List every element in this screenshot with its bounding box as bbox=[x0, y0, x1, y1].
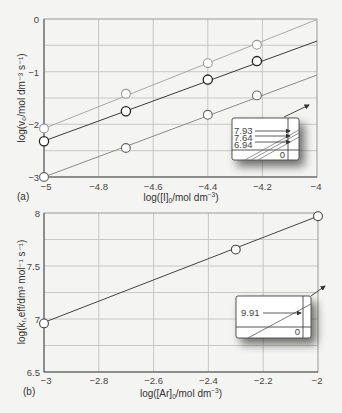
svg-text:−2.8: −2.8 bbox=[89, 375, 108, 386]
inset-a-zero: 0 bbox=[280, 149, 285, 160]
svg-text:−5: −5 bbox=[41, 181, 52, 192]
inset-b-zero: 0 bbox=[295, 326, 300, 337]
svg-text:−4: −4 bbox=[311, 181, 322, 192]
y-ticks-b: 6.5 7 7.5 8 bbox=[27, 208, 40, 378]
series-middle-points bbox=[39, 57, 261, 146]
x-ticks-b: −3 −2.8 −2.6 −2.4 −2.2 −2 bbox=[41, 375, 323, 386]
figure: −3 −2 −1 0 −5 −4.8 −4.6 −4.4 −4.2 −4 (a)… bbox=[0, 0, 342, 413]
panel-b: 6.5 7 7.5 8 −3 −2.8 −2.6 −2.4 −2.2 −2 (b… bbox=[16, 208, 325, 400]
svg-text:6.5: 6.5 bbox=[27, 367, 40, 378]
inset-b-value: 9.91 bbox=[241, 307, 260, 318]
inset-a: 7.93 7.64 6.94 0 bbox=[232, 105, 309, 160]
x-ticks-a: −5 −4.8 −4.6 −4.4 −4.2 −4 bbox=[41, 181, 322, 192]
svg-text:−2.4: −2.4 bbox=[199, 375, 218, 386]
svg-text:−2.2: −2.2 bbox=[254, 375, 273, 386]
panel-label-a: (a) bbox=[17, 191, 29, 202]
svg-text:−1: −1 bbox=[28, 67, 39, 78]
inset-a-value-3: 6.94 bbox=[234, 139, 253, 150]
y-axis-label-a: log(v₀/mol dm⁻³ s⁻¹) bbox=[16, 53, 27, 142]
grid-b bbox=[44, 213, 318, 372]
x-axis-label-b: log([Ar]0/mol dm−3) bbox=[140, 387, 222, 400]
panel-a: −3 −2 −1 0 −5 −4.8 −4.6 −4.4 −4.2 −4 (a)… bbox=[16, 14, 321, 204]
y-ticks-a: −3 −2 −1 0 bbox=[28, 14, 39, 183]
series-bottom-points bbox=[40, 91, 262, 181]
svg-text:0: 0 bbox=[34, 14, 39, 25]
svg-text:−2.6: −2.6 bbox=[144, 375, 163, 386]
inset-b: 9.91 0 bbox=[236, 286, 325, 338]
svg-text:7.5: 7.5 bbox=[27, 261, 40, 272]
svg-text:−4.6: −4.6 bbox=[144, 181, 163, 192]
series-top-points bbox=[40, 40, 262, 133]
series-top-line bbox=[44, 20, 317, 129]
x-axis-label-a: log([I]0/mol dm−3) bbox=[144, 191, 219, 204]
svg-text:−4.2: −4.2 bbox=[253, 181, 272, 192]
svg-text:8: 8 bbox=[35, 208, 40, 219]
y-axis-label-b: log(kᵣ,eff/dm³ mol⁻¹ s⁻¹) bbox=[16, 240, 27, 344]
svg-text:−3: −3 bbox=[28, 172, 39, 183]
svg-text:−2: −2 bbox=[28, 119, 39, 130]
svg-text:−2: −2 bbox=[312, 375, 323, 386]
svg-text:7: 7 bbox=[35, 314, 40, 325]
panel-label-b: (b) bbox=[23, 386, 35, 397]
svg-text:−3: −3 bbox=[41, 375, 52, 386]
svg-text:−4.8: −4.8 bbox=[89, 181, 108, 192]
